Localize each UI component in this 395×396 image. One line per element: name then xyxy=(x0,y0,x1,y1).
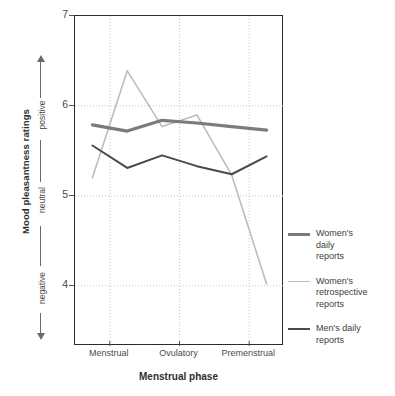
series-line xyxy=(92,71,266,284)
chart-legend: Women'sdailyreportsWomen'sretrospectiver… xyxy=(288,228,392,359)
legend-label-line: Men's daily xyxy=(316,323,361,335)
y-axis-scale-group: positive neutral negative xyxy=(30,0,52,360)
legend-item[interactable]: Women'sdailyreports xyxy=(288,228,392,263)
legend-item[interactable]: Women'sretrospectivereports xyxy=(288,276,392,311)
y-axis-word-negative: negative xyxy=(37,260,47,316)
x-axis-title: Menstrual phase xyxy=(74,371,283,382)
plot-svg xyxy=(75,16,284,346)
legend-label-line: retrospective xyxy=(316,287,368,299)
arrow-up-icon xyxy=(37,55,45,62)
arrow-down-icon xyxy=(37,333,45,340)
legend-swatch xyxy=(288,233,310,236)
legend-label-line: reports xyxy=(316,335,361,347)
x-axis-tick-label: Premenstrual xyxy=(203,348,293,358)
legend-label: Women'sdailyreports xyxy=(316,228,353,263)
y-axis-tick-label: 6 xyxy=(48,98,68,110)
legend-label-line: Women's xyxy=(316,228,353,240)
plot-area xyxy=(74,15,283,345)
legend-item[interactable]: Men's dailyreports xyxy=(288,323,392,346)
legend-label-line: reports xyxy=(316,299,368,311)
chart-figure: Mood pleasantness ratings positive neutr… xyxy=(0,0,395,396)
y-axis-tick-label: 5 xyxy=(48,188,68,200)
y-axis-word-neutral: neutral xyxy=(37,172,47,228)
legend-label: Women'sretrospectivereports xyxy=(316,276,368,311)
y-axis-arrow-segment xyxy=(40,313,41,333)
legend-swatch xyxy=(288,281,310,283)
legend-label-line: Women's xyxy=(316,276,368,288)
y-axis-tick-label: 4 xyxy=(48,278,68,290)
y-axis-tick-label: 7 xyxy=(48,8,68,20)
legend-label-line: daily xyxy=(316,240,353,252)
y-axis-word-positive: positive xyxy=(37,87,47,143)
legend-swatch xyxy=(288,328,310,330)
y-axis-title: Mood pleasantness ratings xyxy=(20,17,31,327)
legend-label-line: reports xyxy=(316,251,353,263)
series-line xyxy=(92,120,266,131)
legend-label: Men's dailyreports xyxy=(316,323,361,346)
